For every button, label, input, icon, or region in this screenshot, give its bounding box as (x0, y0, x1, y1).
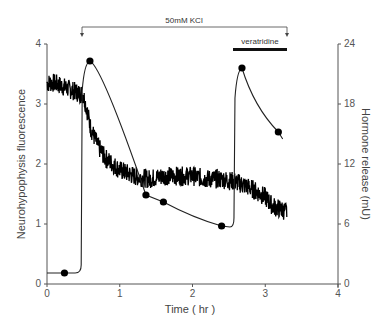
data-point-marker (142, 191, 149, 198)
data-point-marker (86, 57, 93, 64)
y-left-tick-label: 0 (35, 278, 41, 289)
y-left-tick-label: 4 (35, 38, 41, 49)
x-tick-label: 0 (44, 288, 50, 299)
kcl-label: 50mM KCl (165, 16, 203, 25)
ticks (44, 44, 341, 287)
y-right-tick-label: 12 (344, 158, 356, 169)
data-point-marker (160, 198, 167, 205)
kcl-bracket: 50mM KCl (80, 16, 289, 37)
y-axis-right-title: Hormone release (mU) (360, 108, 372, 220)
y-left-tick-label: 1 (35, 218, 41, 229)
veratridine-bar: veratridine (233, 37, 287, 51)
data-point-marker (238, 64, 245, 71)
x-tick-label: 3 (262, 288, 268, 299)
y-right-tick-label: 18 (344, 98, 356, 109)
x-tick-label: 1 (117, 288, 123, 299)
hormone-release-line (47, 57, 283, 276)
y-left-tick-label: 2 (35, 158, 41, 169)
veratridine-label: veratridine (241, 37, 279, 46)
data-point-marker (61, 269, 68, 276)
x-tick-label: 4 (335, 288, 341, 299)
y-right-tick-label: 24 (344, 38, 356, 49)
y-left-tick-label: 3 (35, 98, 41, 109)
arrow-down-icon (80, 33, 84, 37)
data-point-marker (275, 128, 282, 135)
chart: 012340123406121824 Time ( hr ) Neurohypo… (0, 0, 387, 333)
y-right-tick-label: 0 (344, 278, 350, 289)
x-tick-label: 2 (190, 288, 196, 299)
x-axis-title: Time ( hr ) (165, 303, 215, 315)
annotations: 50mM KCl veratridine (80, 16, 289, 51)
y-axis-left-title: Neurohypophysis fluorescence (15, 89, 27, 239)
fluorescence-trace (47, 74, 287, 220)
arrow-down-icon (285, 33, 289, 37)
axes (47, 44, 338, 288)
data-point-marker (218, 222, 225, 229)
y-right-tick-label: 6 (344, 218, 350, 229)
